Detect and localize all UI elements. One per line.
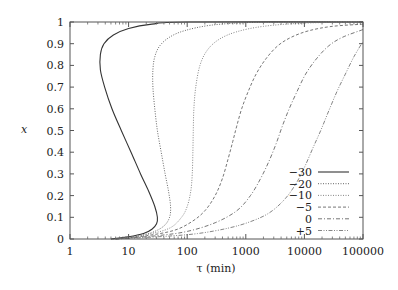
x-axis-title: τ (min)	[196, 262, 235, 275]
y-tick-label: 0.5	[47, 125, 65, 138]
y-tick-label: 0.2	[47, 190, 65, 203]
x-axis-ticks: 110100100010000100000	[67, 22, 385, 258]
x-tick-label: 1	[67, 245, 74, 258]
y-tick-label: 1	[57, 16, 64, 29]
y-tick-label: 0.6	[47, 103, 65, 116]
x-tick-label: 1000	[232, 245, 260, 258]
y-tick-label: 0.9	[47, 38, 65, 51]
series-line	[100, 22, 363, 239]
series-line	[111, 22, 363, 239]
y-tick-label: 0.4	[47, 146, 65, 159]
y-tick-label: 0.8	[47, 59, 65, 72]
x-tick-label: 100	[177, 245, 198, 258]
y-tick-label: 0.7	[47, 81, 65, 94]
x-tick-label: 10	[122, 245, 136, 258]
series-line	[116, 22, 363, 239]
series-line	[116, 30, 363, 239]
y-tick-label: 0.1	[47, 211, 65, 224]
plot-frame	[70, 22, 363, 239]
x-tick-label: 10000	[287, 245, 322, 258]
x-tick-label: 100000	[342, 245, 384, 258]
legend-label: +5	[296, 225, 312, 238]
chart: 00.10.20.30.40.50.60.70.80.91 1101001000…	[0, 0, 398, 290]
y-axis-title: x	[21, 123, 28, 136]
y-tick-label: 0.3	[47, 168, 65, 181]
legend: −30−20−10−50+5	[289, 166, 349, 238]
plot-curves	[100, 22, 363, 239]
y-tick-label: 0	[57, 233, 64, 246]
